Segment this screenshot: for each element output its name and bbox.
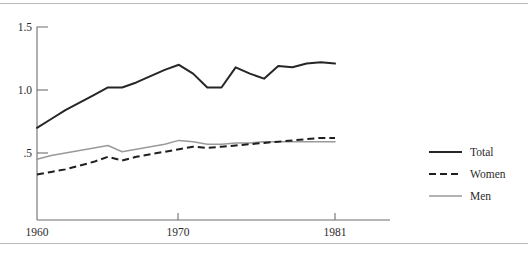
y-tick-label-1-0: 1.0	[18, 84, 33, 96]
series-line-men	[37, 140, 335, 159]
legend-label-total: Total	[470, 146, 493, 158]
x-tick-label-1960: 1960	[26, 226, 49, 238]
legend-label-men: Men	[470, 190, 491, 202]
chart-figure: 1.5 1.0 .5 1960 1970 1981 Total Women Me…	[0, 0, 528, 257]
chart-legend: Total Women Men	[429, 146, 506, 202]
x-tick-label-1981: 1981	[324, 226, 347, 238]
y-tick-label-1-5: 1.5	[18, 21, 33, 33]
x-tick-label-1970: 1970	[167, 226, 190, 238]
legend-label-women: Women	[470, 168, 506, 180]
line-chart-canvas: 1.5 1.0 .5 1960 1970 1981 Total Women Me…	[0, 0, 528, 257]
series-line-total	[37, 62, 335, 128]
series-line-women	[37, 138, 335, 175]
y-tick-label-0-5: .5	[23, 147, 32, 159]
